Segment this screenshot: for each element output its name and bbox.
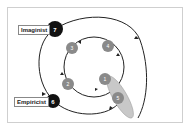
svg-text:2: 2 [67,81,70,87]
arrow-icon [95,88,98,91]
cycle-diagram: 7 6 1 2 3 4 5 [0,0,191,128]
svg-text:1: 1 [104,76,107,82]
arrow-icon [42,92,46,96]
empiricist-label: Empiricist [14,97,49,107]
svg-text:3: 3 [71,45,74,51]
arrow-icon [116,53,120,56]
arrow-icon [60,72,64,75]
svg-text:4: 4 [107,43,110,49]
svg-text:5: 5 [117,95,120,101]
inner-node-2[interactable]: 2 [62,78,74,90]
imaginist-label: Imaginist [18,25,50,35]
inner-node-5[interactable]: 5 [112,92,124,104]
inner-node-3[interactable]: 3 [66,42,78,54]
inner-node-4[interactable]: 4 [102,40,114,52]
inner-node-1[interactable]: 1 [99,73,111,85]
